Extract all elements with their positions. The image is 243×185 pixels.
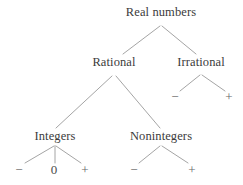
tree-node-irr-neg: − xyxy=(171,90,178,103)
tree-edges xyxy=(0,0,243,185)
tree-edge-nonintegers-pos xyxy=(162,146,188,163)
tree-edge-integers-neg xyxy=(25,146,54,163)
tree-node-integers: Integers xyxy=(34,130,75,143)
tree-edge-irrational-pos xyxy=(202,75,225,91)
tree-node-int-zero: 0 xyxy=(51,163,58,176)
real-numbers-tree-diagram: Real numbersRationalIrrationalIntegersNo… xyxy=(0,0,243,185)
tree-node-rational: Rational xyxy=(92,56,135,69)
tree-node-irrational: Irrational xyxy=(177,56,225,69)
tree-node-non-pos: + xyxy=(188,163,195,176)
tree-node-irr-pos: + xyxy=(225,90,232,103)
tree-node-int-neg: − xyxy=(15,163,22,176)
tree-edge-real-rational xyxy=(123,26,160,54)
tree-edge-irrational-neg xyxy=(180,75,200,91)
tree-node-non-neg: − xyxy=(130,163,137,176)
tree-node-int-pos: + xyxy=(81,163,88,176)
tree-edge-rational-noninteger xyxy=(116,76,160,128)
tree-edge-rational-integers xyxy=(56,76,112,128)
tree-node-real: Real numbers xyxy=(126,6,196,19)
tree-edge-real-irrational xyxy=(162,26,196,54)
tree-edge-integers-pos xyxy=(56,146,81,163)
tree-edge-nonintegers-neg xyxy=(139,146,160,163)
tree-node-nonintegers: Nonintegers xyxy=(130,130,192,143)
